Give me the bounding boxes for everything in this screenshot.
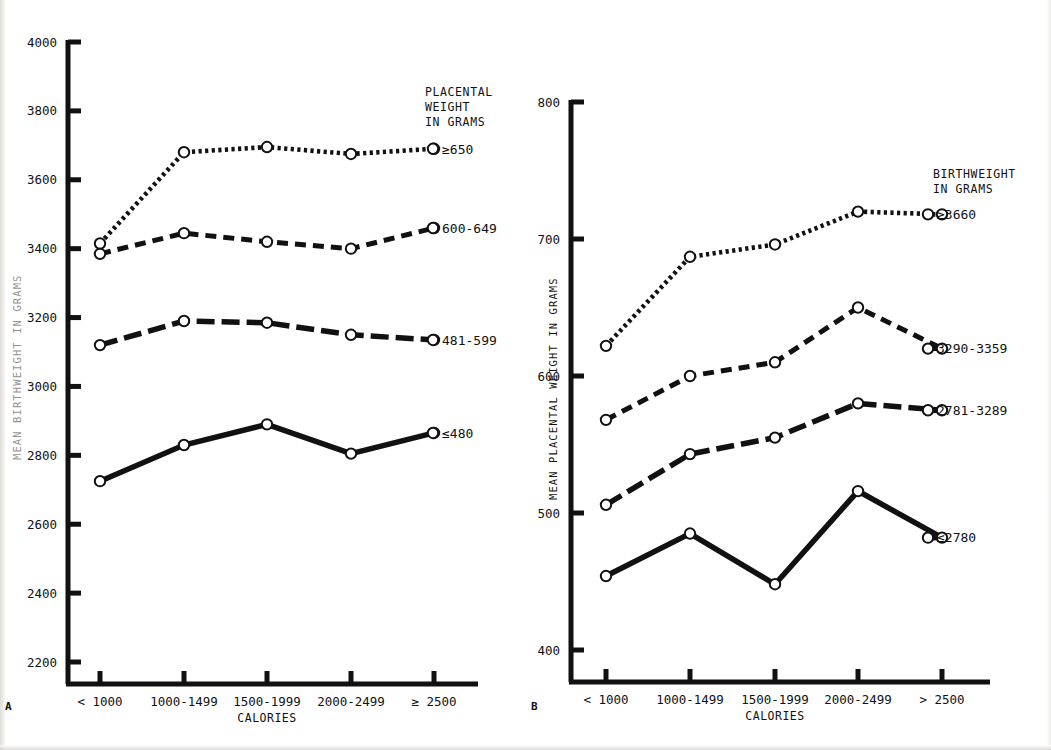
- y-tick-label: 3400: [27, 241, 57, 256]
- series-end-marker: [428, 144, 438, 154]
- y-tick-label: 2600: [27, 517, 57, 532]
- data-point: [601, 500, 611, 510]
- x-tick-label: > 2500: [919, 692, 964, 707]
- data-point: [95, 476, 105, 486]
- y-tick-label: 400: [537, 643, 560, 658]
- data-point: [685, 449, 695, 459]
- x-tick-label: 1500-1999: [741, 692, 809, 707]
- data-point: [601, 415, 611, 425]
- series-label: 600-649: [442, 221, 497, 236]
- x-tick-label: 2000-2499: [317, 694, 385, 709]
- legend-title-line: WEIGHT: [425, 100, 470, 114]
- data-point: [601, 341, 611, 351]
- x-tick-label: 1500-1999: [233, 694, 301, 709]
- data-point: [262, 237, 272, 247]
- series-line-≤480: [100, 424, 434, 481]
- y-tick-label: 4000: [27, 35, 57, 50]
- x-axis-title: CALORIES: [237, 711, 296, 725]
- y-tick-label: 3600: [27, 172, 57, 187]
- figure-root: A MEAN BIRTHWEIGHT IN GRAMS 220024002600…: [0, 0, 1051, 750]
- panel-b: B MEAN PLACENTAL WEIGHT IN GRAMS 4005006…: [525, 0, 1051, 750]
- series-end-marker: [428, 428, 438, 438]
- y-tick-label: 2400: [27, 586, 57, 601]
- legend-title-line: IN GRAMS: [933, 182, 993, 196]
- legend-title-line: PLACENTAL: [425, 85, 493, 99]
- data-point: [179, 228, 189, 238]
- data-point: [95, 249, 105, 259]
- y-tick-label: 3800: [27, 103, 57, 118]
- series-line-2781-3289: [606, 403, 942, 504]
- series-line-≤2780: [606, 491, 942, 584]
- series-end-marker: [923, 209, 933, 219]
- data-point: [853, 206, 863, 216]
- x-tick-label: 2000-2499: [824, 692, 892, 707]
- x-tick-label: 1000-1499: [150, 694, 218, 709]
- y-tick-label: 3200: [27, 310, 57, 325]
- data-point: [685, 371, 695, 381]
- data-point: [853, 302, 863, 312]
- series-end-marker: [923, 532, 933, 542]
- data-point: [95, 238, 105, 248]
- series-line-≥650: [100, 147, 434, 243]
- series-label: ≤2780: [937, 530, 976, 545]
- x-tick-label: ≥ 2500: [411, 694, 456, 709]
- series-label: 481-599: [442, 333, 497, 348]
- y-tick-label: 600: [537, 369, 560, 384]
- x-tick-label: < 1000: [583, 692, 628, 707]
- data-point: [685, 528, 695, 538]
- series-end-marker: [428, 335, 438, 345]
- series-label: ≥3660: [937, 207, 976, 222]
- data-point: [179, 316, 189, 326]
- data-point: [685, 252, 695, 262]
- y-tick-label: 500: [537, 506, 560, 521]
- data-point: [262, 318, 272, 328]
- legend-title-line: IN GRAMS: [425, 115, 485, 129]
- data-point: [770, 432, 780, 442]
- data-point: [770, 357, 780, 367]
- data-point: [346, 448, 356, 458]
- y-tick-label: 700: [537, 232, 560, 247]
- series-end-marker: [923, 343, 933, 353]
- series-end-marker: [923, 405, 933, 415]
- data-point: [179, 147, 189, 157]
- data-point: [346, 330, 356, 340]
- data-point: [262, 142, 272, 152]
- data-point: [346, 243, 356, 253]
- x-tick-label: 1000-1499: [656, 692, 724, 707]
- y-tick-label: 2200: [27, 655, 57, 670]
- data-point: [346, 149, 356, 159]
- data-point: [601, 571, 611, 581]
- data-point: [770, 239, 780, 249]
- data-point: [95, 340, 105, 350]
- series-label: ≥650: [442, 142, 473, 157]
- x-tick-label: < 1000: [77, 694, 122, 709]
- data-point: [853, 486, 863, 496]
- y-tick-label: 800: [537, 95, 560, 110]
- data-point: [770, 579, 780, 589]
- data-point: [262, 419, 272, 429]
- panel-a: A MEAN BIRTHWEIGHT IN GRAMS 220024002600…: [0, 0, 525, 750]
- data-point: [853, 398, 863, 408]
- data-point: [179, 440, 189, 450]
- legend-title-line: BIRTHWEIGHT: [933, 167, 1016, 181]
- x-axis-title: CALORIES: [745, 709, 804, 723]
- series-line-≥3660: [606, 212, 942, 346]
- panel-b-plot: 400500600700800< 10001000-14991500-19992…: [525, 0, 1051, 750]
- y-tick-label: 2800: [27, 448, 57, 463]
- panel-a-plot: 2200240026002800300032003400360038004000…: [0, 0, 525, 750]
- series-end-marker: [428, 223, 438, 233]
- series-label: ≤480: [442, 426, 473, 441]
- series-label: 3290-3359: [937, 341, 1007, 356]
- series-label: 2781-3289: [937, 403, 1007, 418]
- y-tick-label: 3000: [27, 379, 57, 394]
